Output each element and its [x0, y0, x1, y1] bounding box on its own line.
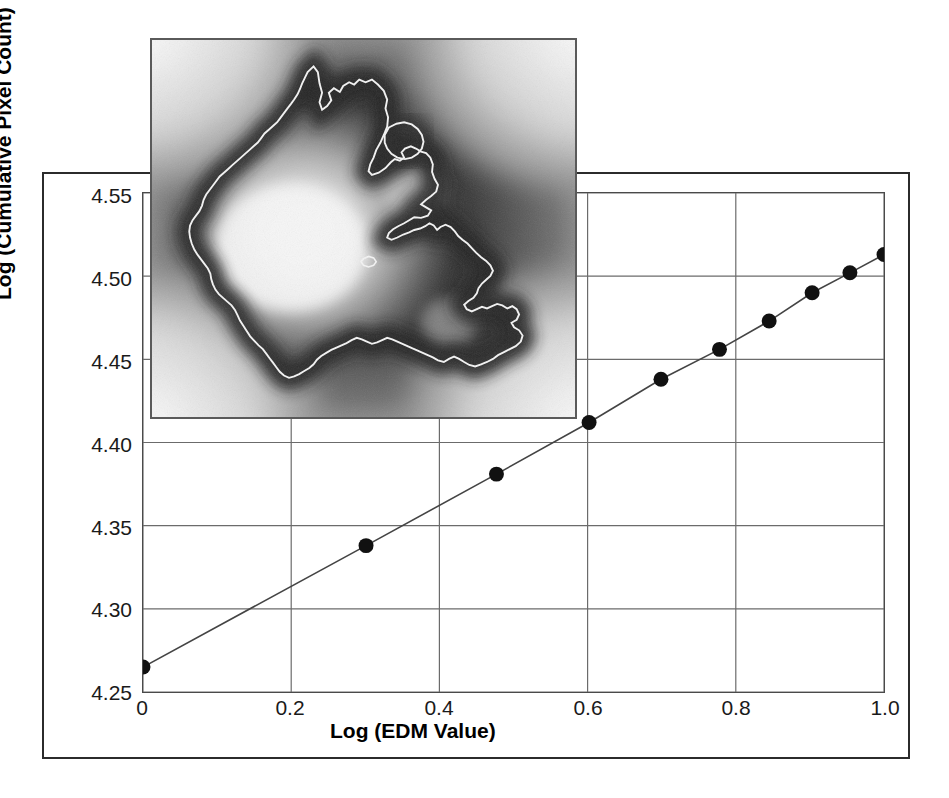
y-tick-label-4-30: 4.30 — [62, 599, 132, 620]
y-tick-label-4-40: 4.40 — [62, 434, 132, 455]
x-tick-label-0-4: 0.4 — [409, 697, 469, 718]
y-tick-label-4-55: 4.55 — [62, 185, 132, 206]
y-tick-label-4-45: 4.45 — [62, 351, 132, 372]
x-axis-title: Log (EDM Value) — [330, 719, 496, 743]
x-tick-label-0: 0 — [112, 697, 172, 718]
edm-image — [152, 40, 575, 417]
edm-inset-panel — [150, 38, 577, 419]
y-tick-label-4-35: 4.35 — [62, 517, 132, 538]
x-tick-label-1-0: 1.0 — [855, 697, 915, 718]
x-tick-label-0-8: 0.8 — [706, 697, 766, 718]
y-axis-title: Log (Cumulative Pixel Count) — [0, 7, 16, 300]
x-tick-label-0-2: 0.2 — [260, 697, 320, 718]
x-tick-label-0-6: 0.6 — [558, 697, 618, 718]
y-tick-label-4-50: 4.50 — [62, 268, 132, 289]
